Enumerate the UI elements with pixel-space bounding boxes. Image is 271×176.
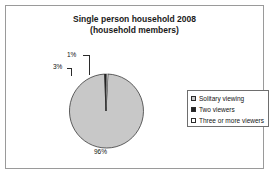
leader-line-three-pct-vertical [71, 68, 72, 76]
pie-svg [58, 62, 154, 162]
chart-title-line1: Single person household 2008 [73, 14, 196, 24]
chart-title-line2: (household members) [6, 25, 263, 36]
leader-line-one-pct-vertical [89, 55, 90, 75]
data-label-two-viewers: 3% [53, 63, 62, 70]
data-label-solitary: 96% [94, 148, 107, 155]
dark-filled-square-icon [191, 107, 196, 112]
legend-label-three-or-more: Three or more viewers [199, 117, 264, 124]
legend-item-solitary: Solitary viewing [191, 93, 265, 104]
light-gray-square-icon [191, 96, 196, 101]
chart-legend: Solitary viewing Two viewers Three or mo… [187, 90, 269, 127]
legend-label-solitary: Solitary viewing [199, 95, 244, 102]
data-label-three-or-more: 1% [67, 51, 76, 58]
chart-title: Single person household 2008 (household … [6, 14, 263, 36]
white-square-icon [191, 118, 196, 123]
legend-item-two-viewers: Two viewers [191, 104, 265, 115]
pie-chart [58, 62, 154, 162]
chart-frame: Single person household 2008 (household … [5, 5, 264, 169]
legend-item-three-or-more: Three or more viewers [191, 115, 265, 126]
legend-label-two-viewers: Two viewers [199, 106, 235, 113]
